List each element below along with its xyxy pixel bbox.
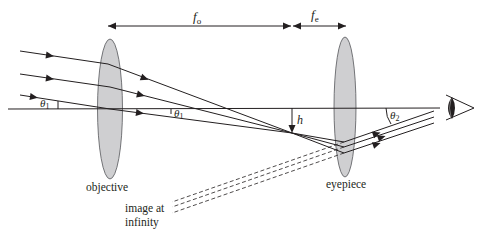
- h-label: h: [297, 113, 303, 127]
- fo-right-arrowhead-icon: [283, 23, 291, 30]
- ray-arrow-icon: [136, 91, 145, 100]
- fe-label: fe: [311, 7, 319, 24]
- dashed-line-2: [172, 147, 344, 207]
- incoming-rays: [20, 51, 292, 133]
- theta2-label: θ2: [390, 109, 399, 123]
- telescope-ray-diagram: fo fe: [0, 0, 488, 233]
- outgoing-rays: [344, 111, 434, 153]
- fo-left-arrowhead-icon: [108, 23, 116, 30]
- fe-left-arrowhead-icon: [293, 23, 301, 30]
- ray-arrow-icon: [140, 74, 150, 83]
- image-at-infinity-label-line1: image at: [125, 202, 165, 215]
- eye-pupil: [448, 97, 455, 119]
- eye-icon: [446, 95, 474, 120]
- image-at-infinity-label-line2: infinity: [125, 216, 159, 229]
- ray-arrow-icon: [136, 109, 145, 117]
- dashed-line-1: [172, 142, 344, 202]
- ray-bottom: [20, 95, 292, 133]
- ray-middle: [20, 74, 292, 133]
- theta1-inner-label: θ1: [174, 107, 183, 121]
- ray-arrow-icon: [29, 93, 38, 101]
- fe-right-arrowhead-icon: [338, 23, 346, 30]
- eyepiece-lens: [334, 37, 356, 177]
- ray-top: [20, 51, 292, 133]
- optical-axis: [8, 108, 440, 109]
- eyepiece-label: eyepiece: [326, 178, 366, 191]
- theta2-angle: θ2: [386, 108, 399, 124]
- out-ray-3: [344, 123, 434, 153]
- focal-length-dimension: fo fe: [108, 7, 346, 30]
- height-indicator: h: [289, 108, 304, 133]
- virtual-image-lines: [172, 142, 344, 213]
- fo-label: fo: [193, 9, 202, 26]
- objective-label: objective: [86, 181, 128, 194]
- dashed-line-3: [172, 153, 344, 213]
- out-ray-1: [344, 111, 434, 142]
